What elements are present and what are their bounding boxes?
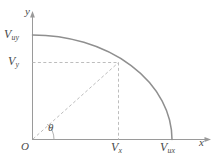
label-v-uy: Vuy [4,28,19,40]
label-origin: O [21,141,29,152]
label-v-ux: Vux [160,141,175,153]
diagram-canvas [0,0,218,163]
velocity-vector-line [33,63,119,140]
label-v-x: Vx [111,141,122,153]
label-theta: θ [48,122,53,133]
x-axis-arrowhead [205,137,212,142]
label-y-axis: y [25,6,30,17]
label-x-axis: x [199,137,204,148]
velocity-magnitude-arc [33,35,173,140]
y-axis-arrowhead [30,11,35,18]
label-v-y: Vy [8,55,19,67]
figure-container: Vuy Vy Vx Vux y x O θ [0,0,218,163]
